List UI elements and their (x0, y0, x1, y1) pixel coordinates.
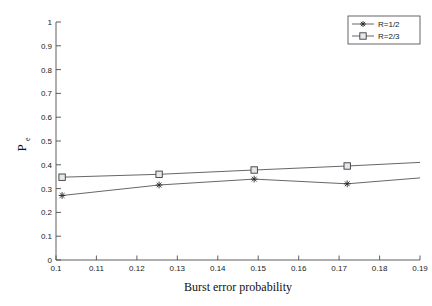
y-tick-label: 0.8 (41, 66, 53, 75)
data-point-marker (344, 180, 351, 187)
y-tick-label: 0.4 (41, 161, 53, 170)
y-tick-label: 0.1 (41, 232, 53, 241)
x-tick-label: 0.18 (372, 264, 388, 273)
legend-label-r23: R=2/3 (378, 32, 400, 41)
legend[interactable]: R=1/2 R=2/3 (348, 16, 420, 44)
data-point-marker (156, 182, 163, 189)
x-tick-label: 0.1 (50, 264, 62, 273)
y-axis-title-main: P (14, 144, 29, 151)
y-tick-label: 0.3 (41, 185, 53, 194)
star-icon (360, 21, 366, 27)
legend-label-r12: R=1/2 (378, 20, 400, 29)
y-tick-label: 1 (48, 18, 53, 27)
data-point-marker (251, 167, 257, 173)
x-tick-label: 0.17 (331, 264, 347, 273)
x-tick-label: 0.19 (412, 264, 428, 273)
y-tick-label: 0.2 (41, 208, 53, 217)
chart-figure: 0 0.1 0.2 0.3 0.4 0.5 0.6 0.7 0.8 0.9 1 (0, 0, 432, 306)
x-tick-label: 0.15 (250, 264, 266, 273)
x-axis-title: Burst error probability (184, 280, 292, 294)
x-tick-label: 0.13 (170, 264, 186, 273)
y-tick-label: 0.6 (41, 113, 53, 122)
data-point-marker (344, 163, 350, 169)
data-point-marker (251, 176, 258, 183)
y-tick-label: 0.9 (41, 42, 53, 51)
x-tick-label: 0.14 (210, 264, 226, 273)
x-tick-label: 0.12 (129, 264, 145, 273)
x-tick-label: 0.11 (89, 264, 105, 273)
square-icon (360, 33, 366, 39)
data-point-marker (59, 192, 66, 199)
data-point-marker (59, 174, 65, 180)
y-tick-label: 0.7 (41, 89, 53, 98)
x-tick-label: 0.16 (291, 264, 307, 273)
data-point-marker (156, 171, 162, 177)
plot-svg: 0 0.1 0.2 0.3 0.4 0.5 0.6 0.7 0.8 0.9 1 (0, 0, 432, 306)
y-tick-label: 0.5 (41, 137, 53, 146)
y-axis-title-subscript: e (23, 137, 32, 141)
